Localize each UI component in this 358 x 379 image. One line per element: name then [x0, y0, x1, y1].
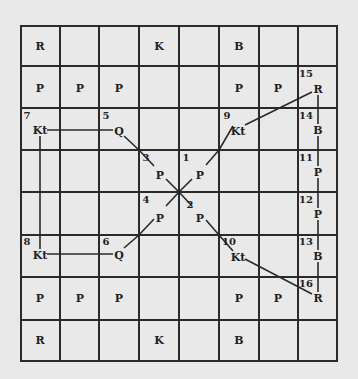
step-number: 4	[143, 195, 150, 205]
piece-rook: R	[35, 335, 44, 346]
piece-pawn-1: P	[196, 170, 204, 181]
piece-king: K	[154, 41, 164, 52]
step-number: 13	[299, 237, 313, 247]
piece-knight-9: Kt	[231, 126, 246, 137]
piece-knight-7: Kt	[33, 125, 48, 136]
piece-bishop: B	[234, 41, 243, 52]
step-number: 5	[103, 111, 110, 121]
grid-lines	[20, 25, 338, 362]
step-number: 1	[183, 153, 190, 163]
step-number: 11	[299, 153, 313, 163]
piece-pawn: P	[115, 293, 123, 304]
piece-pawn-2: P	[196, 213, 204, 224]
board-grid-and-paths	[0, 0, 358, 379]
piece-king: K	[154, 335, 164, 346]
piece-pawn: P	[115, 83, 123, 94]
step-number: 9	[224, 111, 231, 121]
piece-pawn: P	[235, 293, 243, 304]
step-number: 2	[187, 200, 194, 210]
piece-bishop: B	[234, 335, 243, 346]
piece-queen-6: Q	[114, 250, 124, 261]
step-number: 8	[24, 237, 31, 247]
piece-pawn-12: P	[314, 209, 322, 220]
step-number: 3	[143, 153, 150, 163]
piece-bishop-13: B	[313, 251, 322, 262]
piece-pawn: P	[235, 83, 243, 94]
step-number: 10	[222, 237, 236, 247]
piece-rook-15: R	[313, 84, 322, 95]
piece-pawn: P	[274, 83, 282, 94]
step-number: 12	[299, 195, 313, 205]
piece-bishop-14: B	[313, 125, 322, 136]
piece-knight-8: Kt	[33, 250, 48, 261]
piece-pawn-4: P	[156, 213, 164, 224]
piece-knight-10: Kt	[231, 252, 246, 263]
piece-pawn-11: P	[314, 167, 322, 178]
piece-rook: R	[35, 41, 44, 52]
piece-pawn: P	[76, 293, 84, 304]
piece-pawn: P	[36, 293, 44, 304]
piece-queen-5: Q	[114, 126, 124, 137]
step-number: 6	[103, 237, 110, 247]
step-number: 16	[299, 279, 313, 289]
piece-rook-16: R	[313, 293, 322, 304]
piece-pawn: P	[274, 293, 282, 304]
piece-pawn-3: P	[156, 170, 164, 181]
piece-pawn: P	[76, 83, 84, 94]
piece-pawn: P	[36, 83, 44, 94]
step-number: 15	[299, 69, 313, 79]
step-number: 14	[299, 111, 313, 121]
step-number: 7	[24, 111, 31, 121]
